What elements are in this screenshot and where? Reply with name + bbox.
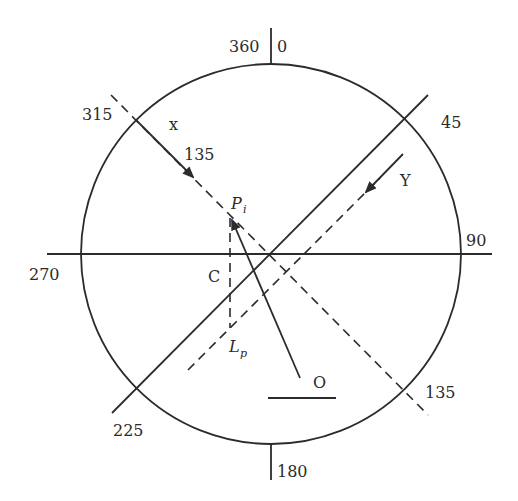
label-360: 360 <box>229 37 260 56</box>
label-x: x <box>169 115 178 134</box>
y-direction-arrow <box>366 154 403 192</box>
compass-diagram: 360 0 45 90 135 180 225 270 315 x 135 Y … <box>0 0 518 501</box>
label-315: 315 <box>82 105 113 124</box>
label-x-135: 135 <box>184 145 215 164</box>
label-90: 90 <box>466 231 486 250</box>
label-135-se: 135 <box>425 383 456 402</box>
label-c: C <box>208 267 220 286</box>
label-225: 225 <box>113 421 144 440</box>
label-180: 180 <box>277 462 308 481</box>
label-45: 45 <box>441 113 461 132</box>
label-p-subscript: i <box>243 203 247 216</box>
label-l-subscript: p <box>240 347 247 360</box>
label-l: L <box>228 337 240 356</box>
label-270: 270 <box>29 265 60 284</box>
label-o: O <box>313 373 326 392</box>
label-y: Y <box>399 171 411 190</box>
label-p: P <box>230 194 242 213</box>
label-0: 0 <box>277 37 287 56</box>
diagram-canvas: 360 0 45 90 135 180 225 270 315 x 135 Y … <box>0 0 518 501</box>
